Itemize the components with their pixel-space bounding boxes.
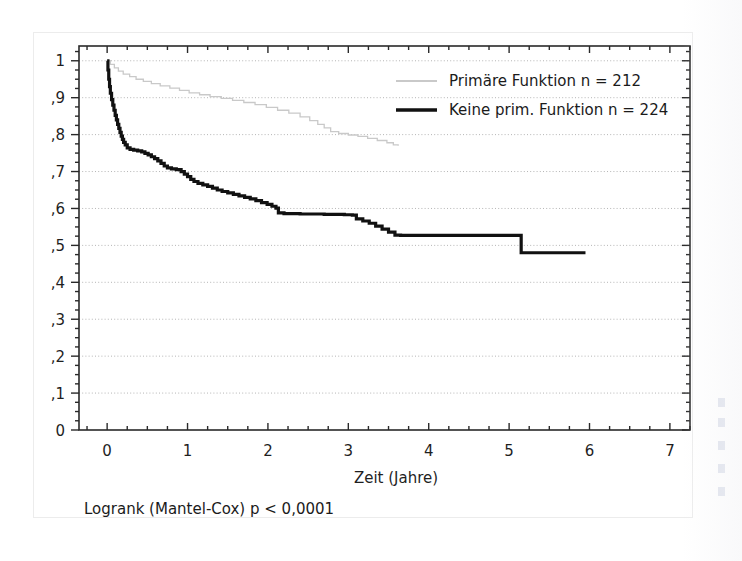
- y-tick-label: ,3: [51, 311, 65, 329]
- scan-edge-mark: [718, 398, 725, 407]
- legend-label-keine-prim-funktion: Keine prim. Funktion n = 224: [449, 101, 668, 119]
- y-tick-label: 0: [55, 422, 65, 440]
- scan-edge-mark: [718, 441, 725, 450]
- scan-edge-mark: [718, 487, 725, 496]
- x-tick-label: 4: [424, 442, 434, 460]
- legend-label-primaere-funktion: Primäre Funktion n = 212: [449, 72, 641, 90]
- y-tick-label: ,9: [51, 89, 65, 107]
- y-tick-label: ,4: [51, 274, 65, 292]
- x-tick-label: 7: [665, 442, 675, 460]
- logrank-footnote: Logrank (Mantel-Cox) p < 0,0001: [84, 500, 334, 518]
- y-tick-label: ,8: [51, 126, 65, 144]
- y-tick-label: ,5: [51, 237, 65, 255]
- kaplan-meier-survival-chart: 0,1,2,3,4,5,6,7,8,91 01234567 Zeit (Jahr…: [0, 0, 742, 561]
- y-tick-label: ,7: [51, 163, 65, 181]
- x-tick-label: 2: [263, 442, 273, 460]
- x-tick-label: 1: [183, 442, 193, 460]
- y-tick-label: ,6: [51, 200, 65, 218]
- y-axis-tick-labels: 0,1,2,3,4,5,6,7,8,91: [51, 52, 65, 439]
- y-tick-label: ,2: [51, 348, 65, 366]
- x-tick-label: 3: [344, 442, 354, 460]
- y-tick-label: ,1: [51, 385, 65, 403]
- x-axis-tick-labels: 01234567: [102, 442, 674, 460]
- x-axis-title: Zeit (Jahre): [354, 469, 438, 487]
- survival-curve-series-0: [107, 61, 398, 146]
- figure-root: 0,1,2,3,4,5,6,7,8,91 01234567 Zeit (Jahr…: [0, 0, 742, 561]
- x-tick-label: 5: [504, 442, 514, 460]
- x-tick-label: 6: [585, 442, 595, 460]
- y-tick-label: 1: [55, 52, 65, 70]
- scan-edge-mark: [718, 418, 725, 427]
- x-tick-label: 0: [102, 442, 112, 460]
- chart-legend: Primäre Funktion n = 212 Keine prim. Fun…: [396, 72, 668, 119]
- scan-edge-mark: [718, 464, 725, 473]
